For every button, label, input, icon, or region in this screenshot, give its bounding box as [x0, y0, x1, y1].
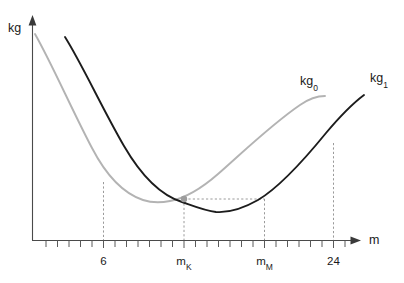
curve-label-kg1-subscript: 1	[383, 80, 388, 90]
x-tick-label-mm: mM	[256, 256, 273, 270]
chart-canvas	[0, 0, 404, 283]
x-tick-label-mk: mK	[176, 256, 191, 270]
y-axis-arrowhead	[29, 15, 37, 26]
curve-kg1	[65, 37, 364, 212]
x-axis-label: m	[369, 234, 379, 247]
curve-label-kg0: kg0	[300, 75, 318, 90]
intersection-marker-dot	[181, 196, 187, 202]
x-axis-arrowhead	[351, 237, 362, 245]
x-tick-label-24: 24	[327, 256, 340, 270]
x-axis-ticks	[46, 241, 345, 249]
curve-label-kg0-subscript: 0	[313, 83, 318, 93]
guide-lines-group	[104, 143, 334, 240]
x-tick-label-6: 6	[100, 256, 106, 270]
x-tick-label-mm-subscript: M	[266, 262, 273, 272]
cost-curves-chart: kg m kg0 kg1 6 mK mM 24	[0, 0, 404, 283]
axes-group	[29, 15, 361, 244]
curve-label-kg1: kg1	[370, 72, 388, 87]
y-axis-label: kg	[8, 22, 21, 35]
x-tick-label-mk-subscript: K	[186, 262, 192, 272]
